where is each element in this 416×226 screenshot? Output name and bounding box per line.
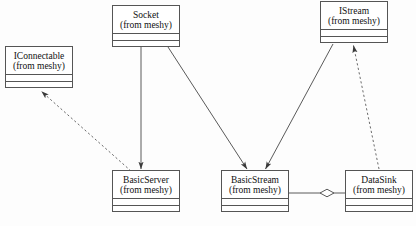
class-name-compartment: BasicServer (from meshy) [113,171,179,199]
uml-class-diagram: IConnectable (from meshy) Socket (from m… [0,0,416,226]
class-operations-compartment [113,206,179,213]
class-box-basicstream[interactable]: BasicStream (from meshy) [221,170,289,212]
class-name-compartment: IStream (from meshy) [321,2,387,30]
class-attributes-compartment [113,199,179,206]
class-name-compartment: BasicStream (from meshy) [222,171,288,199]
class-box-datasink[interactable]: DataSink (from meshy) [345,170,413,212]
class-package: (from meshy) [353,185,405,195]
class-package: (from meshy) [13,61,65,71]
class-name-compartment: DataSink (from meshy) [346,171,412,199]
class-operations-compartment [222,206,288,213]
class-operations-compartment [346,206,412,213]
aggregation-diamond-icon [320,189,334,197]
class-box-istream[interactable]: IStream (from meshy) [320,1,388,43]
class-package: (from meshy) [120,20,172,30]
class-title: IStream [339,6,369,16]
class-title: DataSink [361,175,396,185]
class-attributes-compartment [113,34,179,41]
class-attributes-compartment [222,199,288,206]
class-operations-compartment [6,82,72,89]
class-title: Socket [133,10,159,20]
class-attributes-compartment [321,30,387,37]
edge-istream-basicstream [266,44,334,169]
class-operations-compartment [321,37,387,44]
edge-socket-basicstream [168,47,247,169]
class-box-basicserver[interactable]: BasicServer (from meshy) [112,170,180,212]
class-operations-compartment [113,41,179,48]
class-box-iconnectable[interactable]: IConnectable (from meshy) [5,46,73,88]
edge-basicserver-iconnectable [42,92,132,172]
class-package: (from meshy) [229,185,281,195]
class-title: IConnectable [14,51,65,61]
class-name-compartment: Socket (from meshy) [113,6,179,34]
class-package: (from meshy) [328,16,380,26]
class-title: BasicServer [123,175,169,185]
class-title: BasicStream [231,175,279,185]
class-package: (from meshy) [120,185,172,195]
edge-datasink-istream [354,46,380,170]
class-attributes-compartment [346,199,412,206]
class-attributes-compartment [6,75,72,82]
class-name-compartment: IConnectable (from meshy) [6,47,72,75]
class-box-socket[interactable]: Socket (from meshy) [112,5,180,47]
